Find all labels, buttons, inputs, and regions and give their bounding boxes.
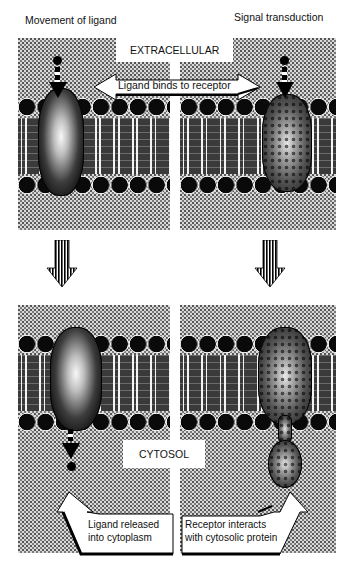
receptor-interacts-label: Receptor interacts with cytosolic protei… <box>185 518 277 544</box>
ligand-released-label: Ligand released into cytoplasm <box>88 518 159 544</box>
lipid-heads-inner <box>180 411 336 433</box>
lipid-bilayer <box>180 88 336 206</box>
dashed-path-icon <box>55 67 60 82</box>
panel-title-signal-transduction: Signal transduction <box>234 11 323 23</box>
ligand-icon <box>280 56 289 65</box>
arrow-down-icon <box>276 82 294 98</box>
cytosol-label: CYTOSOL <box>123 440 205 468</box>
cytosolic-protein <box>268 440 302 488</box>
down-arrow-right-icon <box>254 240 286 288</box>
channel-protein <box>38 88 84 196</box>
ligand-icon <box>67 462 76 471</box>
arrow-down-icon <box>49 82 67 98</box>
dashed-path-icon <box>68 429 73 441</box>
lipid-heads-inner <box>180 174 336 196</box>
extracellular-label: EXTRACELLULAR <box>116 36 233 62</box>
panel-top-right <box>180 38 336 230</box>
ligand-icon <box>53 56 62 65</box>
channel-protein <box>50 327 102 431</box>
ligand-binds-label: Ligand binds to receptor <box>118 79 231 91</box>
panel-title-movement-of-ligand: Movement of ligand <box>25 14 117 26</box>
receptor-tail <box>278 415 292 443</box>
down-arrow-left-icon <box>46 240 78 288</box>
panel-top-left <box>18 38 170 230</box>
receptor-protein <box>262 94 312 192</box>
receptor-protein <box>258 327 312 425</box>
lipid-tails <box>180 118 336 174</box>
arrow-down-icon <box>62 443 80 459</box>
lipid-heads-outer <box>180 333 336 355</box>
dashed-path-icon <box>282 67 287 82</box>
